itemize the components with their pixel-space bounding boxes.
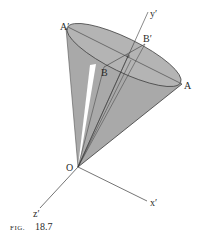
z-prime-axis (40, 167, 78, 208)
figure-caption-prefix: FIG. (10, 224, 25, 232)
label-b-prime: B′ (143, 33, 152, 44)
label-b: B (101, 67, 108, 78)
label-x-prime: x′ (150, 197, 157, 208)
label-a: A (184, 80, 192, 91)
figure-caption-number: 18.7 (35, 221, 53, 232)
label-a-prime: A′ (60, 21, 69, 32)
label-y-prime: y′ (150, 8, 157, 19)
label-z-prime: z′ (33, 208, 40, 219)
cone-diagram: A′ A B B′ y′ O x′ z′ FIG. 18.7 (0, 0, 200, 238)
label-o: O (66, 162, 73, 173)
x-prime-axis (78, 167, 147, 201)
